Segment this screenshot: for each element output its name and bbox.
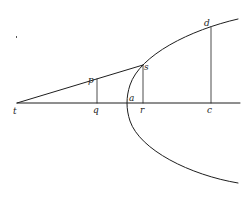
label-d: d [204, 18, 210, 28]
label-a: a [129, 93, 134, 103]
label-q: q [93, 105, 99, 115]
parabola-curve [127, 19, 238, 183]
label-s: s [144, 62, 149, 72]
label-r: r [140, 105, 145, 115]
tangent-line-ts [17, 65, 143, 103]
label-p: p [88, 75, 94, 85]
label-t: t [13, 106, 17, 116]
label-c: c [207, 105, 212, 115]
parabola-tangent-diagram: t p q a s r d c [0, 0, 247, 197]
print-speck [16, 36, 17, 38]
